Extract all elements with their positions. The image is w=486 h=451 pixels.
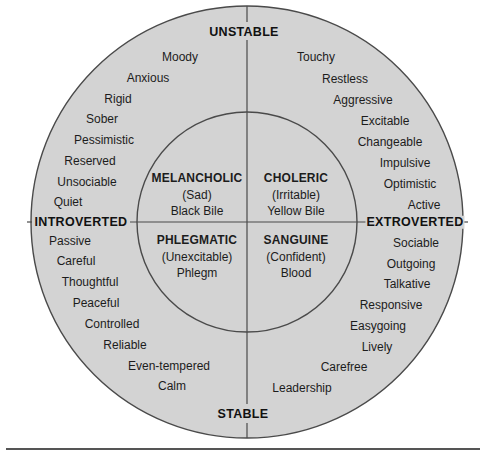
axis-label-unstable: UNSTABLE — [209, 26, 279, 39]
temperament-mood: (Unexcitable) — [157, 249, 237, 266]
trait: Calm — [158, 380, 186, 392]
trait: Controlled — [85, 318, 140, 330]
trait: Aggressive — [333, 94, 392, 106]
trait: Active — [408, 199, 441, 211]
trait: Sociable — [393, 237, 439, 249]
trait: Easygoing — [350, 320, 406, 332]
temperament-phlegmatic: PHLEGMATIC (Unexcitable) Phlegm — [157, 232, 237, 282]
temperament-name: SANGUINE — [264, 232, 329, 249]
trait: Outgoing — [387, 258, 436, 270]
trait: Impulsive — [380, 157, 431, 169]
trait: Restless — [322, 73, 368, 85]
trait: Lively — [362, 341, 393, 353]
temperament-humor: Phlegm — [157, 265, 237, 282]
axis-label-stable: STABLE — [218, 408, 269, 421]
trait: Passive — [49, 235, 91, 247]
temperament-mood: (Irritable) — [264, 187, 328, 204]
temperament-sanguine: SANGUINE (Confident) Blood — [264, 232, 329, 282]
trait: Peaceful — [73, 297, 120, 309]
temperament-humor: Black Bile — [152, 203, 243, 220]
trait: Leadership — [272, 382, 331, 394]
trait: Thoughtful — [62, 276, 119, 288]
temperament-name: PHLEGMATIC — [157, 232, 237, 249]
axis-label-extroverted: EXTROVERTED — [365, 216, 464, 229]
trait: Pessimistic — [74, 134, 134, 146]
temperament-diagram: UNSTABLE STABLE INTROVERTED EXTROVERTED … — [0, 0, 486, 451]
trait: Talkative — [384, 278, 431, 290]
trait: Moody — [162, 51, 198, 63]
temperament-choleric: CHOLERIC (Irritable) Yellow Bile — [264, 170, 328, 220]
trait: Careful — [57, 255, 96, 267]
temperament-name: MELANCHOLIC — [152, 170, 243, 187]
temperament-mood: (Sad) — [152, 187, 243, 204]
trait: Anxious — [127, 72, 170, 84]
temperament-humor: Yellow Bile — [264, 203, 328, 220]
trait: Reliable — [103, 339, 146, 351]
trait: Responsive — [360, 299, 423, 311]
temperament-name: CHOLERIC — [264, 170, 328, 187]
trait: Touchy — [297, 51, 335, 63]
temperament-melancholic: MELANCHOLIC (Sad) Black Bile — [152, 170, 243, 220]
trait: Optimistic — [384, 178, 437, 190]
trait: Quiet — [54, 196, 83, 208]
trait: Excitable — [361, 115, 410, 127]
temperament-humor: Blood — [264, 265, 329, 282]
axis-label-introverted: INTROVERTED — [34, 216, 129, 229]
trait: Even-tempered — [128, 360, 210, 372]
temperament-mood: (Confident) — [264, 249, 329, 266]
trait: Reserved — [64, 155, 115, 167]
trait: Unsociable — [57, 176, 116, 188]
trait: Carefree — [321, 361, 368, 373]
trait: Rigid — [104, 93, 131, 105]
trait: Sober — [86, 113, 118, 125]
trait: Changeable — [358, 136, 423, 148]
